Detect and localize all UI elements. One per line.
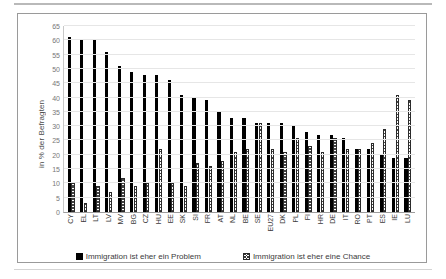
bar-chance[interactable]: [96, 186, 99, 212]
x-axis-tick-label: BE: [239, 213, 251, 251]
bar-chance[interactable]: [271, 149, 274, 212]
x-axis-tick-label: FR: [201, 213, 213, 251]
bar-chance[interactable]: [109, 192, 112, 212]
solid-square-icon: [76, 253, 83, 260]
bar-chance[interactable]: [408, 100, 411, 212]
bar-chance[interactable]: [346, 149, 349, 212]
gridline: [64, 197, 415, 198]
gridline: [64, 54, 415, 55]
gridline: [64, 139, 415, 140]
bar-chance[interactable]: [383, 129, 386, 212]
x-axis-tick-label: DK: [276, 213, 288, 251]
y-axis-tick-label: 10: [44, 180, 60, 187]
legend-item-chance[interactable]: Immigration ist eher eine Chance: [243, 252, 370, 261]
bar-chance[interactable]: [134, 186, 137, 212]
bar-chance[interactable]: [246, 149, 249, 212]
y-axis-tick-label: 40: [44, 94, 60, 101]
y-axis-tick-label: 60: [44, 37, 60, 44]
bottom-divider-rule: [14, 269, 432, 270]
bar-chance[interactable]: [159, 149, 162, 212]
top-divider-rule: [14, 3, 432, 5]
x-axis-tick-label: EE: [164, 213, 176, 251]
chart-frame: in % der Befragten 051015202530354045505…: [17, 13, 427, 263]
x-axis-tick-label: LT: [89, 213, 101, 251]
chart-plot-wrapper: in % der Befragten 051015202530354045505…: [18, 14, 428, 264]
x-axis-tick-label: DE: [326, 213, 338, 251]
gridline: [64, 182, 415, 183]
gridline: [64, 82, 415, 83]
gridline: [64, 68, 415, 69]
y-axis-tick-label: 35: [44, 108, 60, 115]
hatched-square-icon: [243, 253, 250, 260]
x-axis-tick-label: HU: [151, 213, 163, 251]
x-axis-tick-label: SI: [189, 213, 201, 251]
gridline: [64, 168, 415, 169]
x-axis-tick-label: NL: [226, 213, 238, 251]
bar-chance[interactable]: [209, 166, 212, 212]
gridline: [64, 111, 415, 112]
x-axis-tick-label: EU27: [264, 213, 276, 251]
y-axis-tick-label: 20: [44, 151, 60, 158]
bar-problem[interactable]: [80, 40, 83, 212]
gridline: [64, 97, 415, 98]
gridline: [64, 125, 415, 126]
y-axis-tick-label: 5: [44, 194, 60, 201]
x-axis-tick-label: SE: [251, 213, 263, 251]
bar-problem[interactable]: [105, 52, 108, 212]
x-axis-tick-label: PT: [363, 213, 375, 251]
bar-chance[interactable]: [84, 203, 87, 212]
x-axis-tick-label: CZ: [139, 213, 151, 251]
y-axis-tick-label: 65: [44, 23, 60, 30]
y-axis-tick-label: 55: [44, 51, 60, 58]
y-axis-tick-label: 0: [44, 209, 60, 216]
x-axis-tick-label: MV: [114, 213, 126, 251]
x-axis-tick-label: AT: [214, 213, 226, 251]
gridline: [64, 39, 415, 40]
x-axis-tick-label: EL: [76, 213, 88, 251]
y-axis-tick-label: 50: [44, 65, 60, 72]
x-axis-tick-label: LV: [101, 213, 113, 251]
bar-chance[interactable]: [358, 149, 361, 212]
x-axis-tick-label: IE: [388, 213, 400, 251]
x-axis-tick-label: BG: [126, 213, 138, 251]
chart-legend: Immigration ist eher ein Problem Immigra…: [18, 252, 428, 261]
gridline: [64, 154, 415, 155]
legend-label-problem: Immigration ist eher ein Problem: [86, 252, 201, 261]
x-axis-tick-labels: CYELLTLVMVBGCZHUEESKSIFRATNLBESEEU27DKPL…: [63, 213, 414, 251]
x-axis-tick-label: PL: [288, 213, 300, 251]
legend-label-chance: Immigration ist eher eine Chance: [253, 252, 370, 261]
x-axis-tick-label: FI: [301, 213, 313, 251]
bar-chance[interactable]: [308, 146, 311, 212]
x-axis-tick-label: HR: [313, 213, 325, 251]
legend-item-problem[interactable]: Immigration ist eher ein Problem: [76, 252, 201, 261]
bar-chance[interactable]: [333, 138, 336, 212]
plot-area: [63, 26, 415, 213]
x-axis-tick-label: LU: [401, 213, 413, 251]
bar-chance[interactable]: [184, 186, 187, 212]
bar-chance[interactable]: [196, 163, 199, 212]
gridline: [64, 25, 415, 26]
y-axis-tick-label: 25: [44, 137, 60, 144]
y-axis-tick-label: 45: [44, 80, 60, 87]
y-axis-tick-labels: 05101520253035404550556065: [44, 26, 60, 212]
x-axis-tick-label: CY: [64, 213, 76, 251]
y-axis-tick-label: 15: [44, 166, 60, 173]
x-axis-tick-label: SK: [176, 213, 188, 251]
x-axis-tick-label: IT: [338, 213, 350, 251]
bar-chance[interactable]: [296, 138, 299, 212]
x-axis-tick-label: ES: [376, 213, 388, 251]
y-axis-tick-label: 30: [44, 123, 60, 130]
x-axis-tick-label: RO: [351, 213, 363, 251]
